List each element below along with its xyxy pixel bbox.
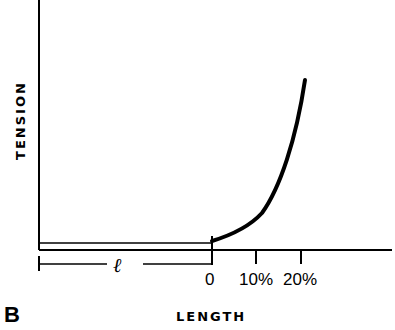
y-axis-label: TENSION [8, 70, 32, 170]
tension-length-chart [0, 0, 395, 330]
y-axis-label-text: TENSION [13, 81, 28, 160]
tension-curve [212, 80, 305, 241]
x-axis-label: LENGTH [176, 309, 246, 324]
tick-label-20: 20% [283, 270, 317, 290]
rest-length-symbol: ℓ [113, 253, 121, 277]
panel-label: B [4, 302, 20, 328]
tick-label-10: 10% [239, 270, 273, 290]
tick-label-0: 0 [205, 270, 214, 290]
